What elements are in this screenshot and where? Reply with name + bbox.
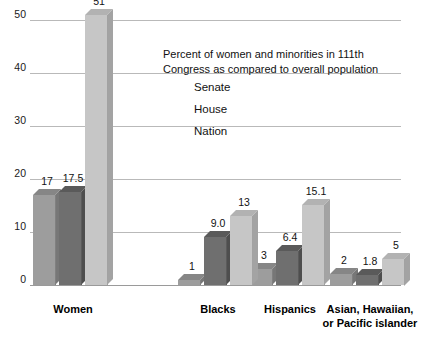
- bar-nation-0: [85, 15, 107, 285]
- legend-label-house: House: [194, 104, 227, 116]
- legend-item-nation: Nation: [163, 122, 411, 143]
- legend-item-house: House: [163, 100, 411, 121]
- bar-house-0: [59, 192, 81, 285]
- legend-item-senate: Senate: [163, 78, 411, 99]
- bar-senate-3: [330, 274, 352, 285]
- value-label-nation-3: 5: [376, 240, 416, 251]
- value-label-nation-2: 15.1: [296, 186, 336, 197]
- bar-senate-0: [33, 195, 55, 285]
- legend-title-line1: Percent of women and minorities in 111th: [163, 47, 411, 62]
- legend: Percent of women and minorities in 111th…: [163, 47, 411, 143]
- category-label-line2: or Pacific islander: [290, 317, 422, 331]
- category-label-line1: Asian, Hawaiian,: [290, 303, 422, 317]
- legend-title-line2: Congress as compared to overall populati…: [163, 62, 411, 77]
- bar-house-1: [204, 237, 226, 285]
- category-label-0: Women: [0, 303, 153, 317]
- bar-house-3: [356, 275, 378, 285]
- bar-house-2: [276, 251, 298, 285]
- legend-swatch-nation: [165, 126, 185, 138]
- legend-swatch-house: [165, 104, 185, 116]
- category-label-line1: Women: [0, 303, 153, 317]
- bar-nation-3: [382, 259, 404, 286]
- legend-label-nation: Nation: [194, 126, 227, 138]
- value-label-nation-0: 51: [79, 0, 119, 6]
- bar-nation-1: [230, 216, 252, 285]
- legend-label-senate: Senate: [194, 82, 230, 94]
- bar-senate-1: [178, 280, 200, 285]
- value-label-nation-1: 13: [224, 197, 264, 208]
- category-label-3: Asian, Hawaiian,or Pacific islander: [290, 303, 422, 331]
- bar-nation-2: [302, 205, 324, 285]
- legend-swatch-senate: [165, 82, 185, 94]
